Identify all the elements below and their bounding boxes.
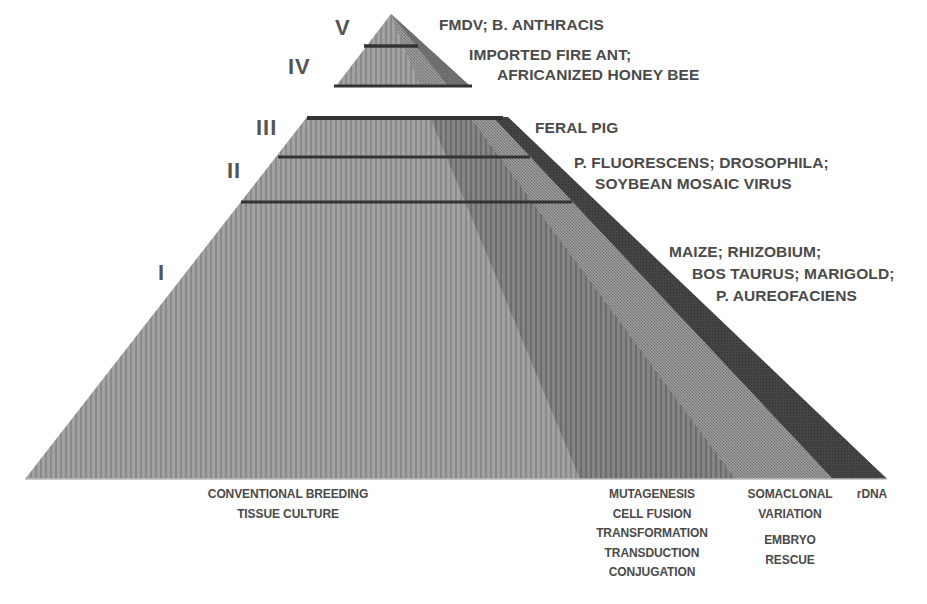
technique-line: TRANSDUCTION [586, 547, 718, 567]
organisms-level-i-line2: BOS TAURUS; MARIGOLD; [692, 266, 894, 282]
level-label-v: V [335, 17, 351, 39]
organisms-level-v: FMDV; B. ANTHRACIS [439, 17, 604, 33]
organisms-level-ii-line1: P. FLUORESCENS; DROSOPHILA; [574, 155, 829, 171]
level-label-iv: IV [288, 56, 311, 78]
organisms-level-ii-line2: SOYBEAN MOSAIC VIRUS [595, 176, 792, 192]
technique-somaclonal: SOMACLONAL VARIATION [740, 488, 840, 527]
technique-line: CELL FUSION [586, 508, 718, 528]
technique-embryo-rescue: EMBRYO RESCUE [750, 534, 830, 573]
level-label-ii: II [227, 160, 241, 182]
technique-line: MUTAGENESIS [586, 488, 718, 508]
technique-conventional: CONVENTIONAL BREEDING TISSUE CULTURE [193, 488, 383, 527]
technique-line: TRANSFORMATION [586, 527, 718, 547]
level-label-i: I [158, 262, 165, 284]
technique-line: RESCUE [750, 554, 830, 574]
technique-line: SOMACLONAL [740, 488, 840, 508]
organisms-level-i-line3: P. AUREOFACIENS [716, 288, 857, 304]
technique-line: rDNA [852, 488, 892, 508]
organisms-level-iv-line2: AFRICANIZED HONEY BEE [497, 67, 699, 83]
level-label-iii: III [256, 117, 277, 139]
technique-line: CONJUGATION [586, 566, 718, 586]
pyramid-diagram: V IV III II I FMDV; B. ANTHRACIS IMPORTE… [0, 0, 927, 604]
technique-mutagenesis: MUTAGENESIS CELL FUSION TRANSFORMATION T… [586, 488, 718, 586]
technique-line: EMBRYO [750, 534, 830, 554]
technique-line: TISSUE CULTURE [193, 508, 383, 528]
technique-line: VARIATION [740, 508, 840, 528]
organisms-level-i-line1: MAIZE; RHIZOBIUM; [669, 244, 821, 260]
organisms-level-iv-line1: IMPORTED FIRE ANT; [469, 47, 631, 63]
technique-rdna: rDNA [852, 488, 892, 508]
technique-line: CONVENTIONAL BREEDING [193, 488, 383, 508]
organisms-level-iii: FERAL PIG [535, 120, 618, 136]
